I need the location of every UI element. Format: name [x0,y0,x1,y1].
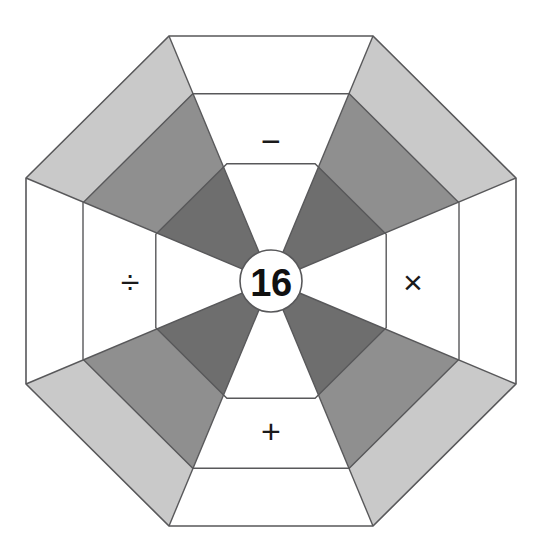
multiply-icon[interactable]: × [403,263,423,301]
hub-value-label: 16 [250,262,291,304]
divide-icon[interactable]: ÷ [121,263,140,301]
diagram-canvas: − × + ÷ 16 [0,0,542,558]
center-hub[interactable]: 16 [240,250,302,312]
minus-icon[interactable]: − [261,122,281,160]
octagon-wheel-figure: − × + ÷ 16 [0,0,542,558]
plus-icon[interactable]: + [261,412,281,450]
